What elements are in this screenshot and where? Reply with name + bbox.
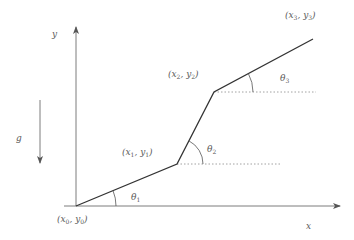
angle-arc-theta2	[189, 141, 203, 164]
point-label-p0: (x0, y0)	[57, 215, 88, 225]
y-axis-label: y	[52, 30, 57, 39]
angle-label-theta2: θ2	[207, 145, 216, 155]
angle-label-theta1: θ1	[131, 193, 140, 203]
gravity-label: g	[16, 134, 22, 143]
piecewise-path	[76, 39, 313, 206]
angle-label-theta3: θ3	[280, 74, 289, 84]
point-label-p2: (x2, y2)	[168, 70, 199, 80]
angle-arc-theta1	[113, 191, 116, 206]
point-label-p1: (x1, y1)	[122, 148, 153, 158]
point-label-p3: (x3, y3)	[285, 11, 316, 21]
angle-arc-theta3	[248, 74, 253, 92]
x-axis-label: x	[306, 222, 311, 231]
